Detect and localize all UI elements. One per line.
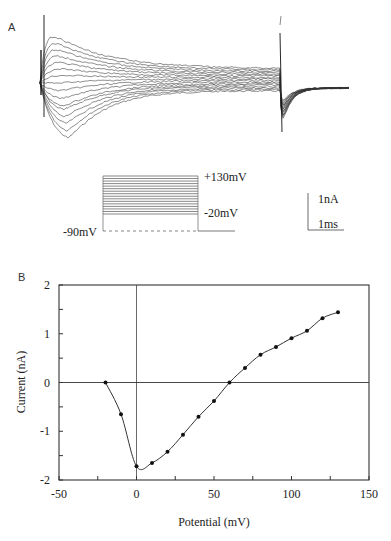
x-tick-label: 50 bbox=[208, 487, 220, 501]
data-point bbox=[197, 415, 201, 419]
data-point bbox=[166, 450, 170, 454]
iv-plot: -50050100150-2-1012 bbox=[40, 278, 378, 501]
data-point bbox=[212, 399, 216, 403]
current-trace bbox=[40, 62, 349, 112]
x-axis-label: Potential (mV) bbox=[178, 515, 250, 529]
stim-holding-label: -90mV bbox=[63, 225, 97, 239]
scale-current-label: 1nA bbox=[318, 192, 339, 206]
y-tick-label: 1 bbox=[44, 327, 50, 341]
data-point bbox=[150, 461, 154, 465]
current-traces bbox=[40, 15, 349, 138]
panel-b-label: B bbox=[18, 271, 25, 283]
data-point bbox=[305, 329, 309, 333]
data-point bbox=[181, 433, 185, 437]
data-point bbox=[119, 412, 123, 416]
data-point bbox=[104, 381, 108, 385]
stimulus-protocol bbox=[103, 176, 235, 231]
data-point bbox=[135, 464, 139, 468]
x-tick-label: 0 bbox=[134, 487, 140, 501]
data-point bbox=[243, 366, 247, 370]
current-trace bbox=[40, 83, 349, 123]
data-point bbox=[228, 381, 232, 385]
data-point bbox=[274, 345, 278, 349]
data-point bbox=[336, 310, 340, 314]
current-trace bbox=[40, 81, 349, 107]
y-tick-label: -2 bbox=[40, 473, 50, 487]
current-trace bbox=[40, 80, 349, 109]
x-tick-label: 150 bbox=[360, 487, 378, 501]
scale-time-label: 1ms bbox=[318, 217, 338, 231]
x-tick-label: 100 bbox=[283, 487, 301, 501]
y-axis-label: Current (nA) bbox=[14, 351, 28, 413]
y-tick-label: 2 bbox=[44, 278, 50, 292]
iv-curve bbox=[106, 312, 339, 469]
current-trace bbox=[40, 78, 349, 109]
stim-top-label: +130mV bbox=[204, 170, 247, 184]
x-tick-label: -50 bbox=[51, 487, 67, 501]
panel-a-label: A bbox=[8, 21, 16, 33]
data-point bbox=[321, 316, 325, 320]
data-point bbox=[259, 353, 263, 357]
stim-step-label: -20mV bbox=[204, 206, 238, 220]
data-point bbox=[290, 336, 294, 340]
y-tick-label: 0 bbox=[44, 376, 50, 390]
y-tick-label: -1 bbox=[40, 424, 50, 438]
figure: A +130mV -20mV -90mV 1nA 1ms B -50050100… bbox=[0, 0, 391, 541]
